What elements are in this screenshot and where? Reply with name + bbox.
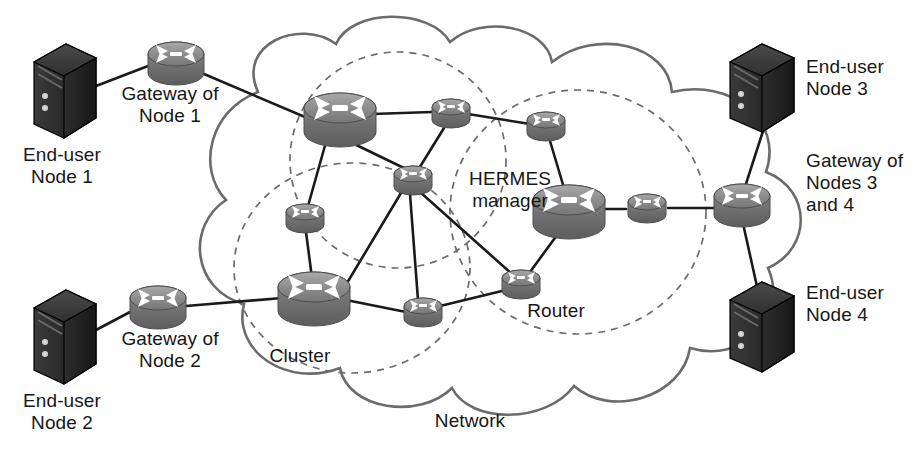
link-server3-gw34 — [744, 128, 764, 190]
link-chbl-rbm — [346, 300, 406, 312]
label-gateway-nodes-3-4: Gateway of Nodes 3 and 4 — [806, 150, 903, 216]
link-rur-hermes — [550, 141, 564, 188]
link-rbm-rlbl — [440, 290, 506, 306]
label-end-user-node-1: End-user Node 1 — [23, 144, 101, 188]
cluster-boundary-top — [290, 52, 506, 268]
label-router: Router — [527, 300, 585, 322]
link-rma-rbm — [410, 194, 418, 300]
link-rtm-rma — [418, 128, 444, 170]
server-end-user-node-1[interactable] — [34, 44, 96, 138]
router-cluster-head-top[interactable] — [304, 93, 376, 147]
router-labeled[interactable] — [502, 270, 540, 299]
label-end-user-node-3: End-user Node 3 — [806, 56, 884, 100]
label-gateway-of-node-1: Gateway of Node 1 — [121, 83, 218, 127]
server-end-user-node-3[interactable] — [730, 44, 794, 132]
link-rlu-chbl — [306, 232, 312, 278]
router-top-mid[interactable] — [432, 99, 470, 128]
router-cluster-head-bottom-left[interactable] — [278, 272, 350, 326]
router-gw-node-1[interactable] — [148, 42, 204, 85]
label-gateway-of-node-2: Gateway of Node 2 — [121, 328, 218, 372]
router-gw-nodes-3-4[interactable] — [714, 184, 770, 227]
router-left-upper[interactable] — [286, 204, 324, 233]
server-end-user-node-4[interactable] — [730, 282, 794, 372]
router-gw-node-2[interactable] — [130, 286, 186, 329]
network-diagram: End-user Node 1 Gateway of Node 1 End-us… — [0, 0, 918, 470]
link-chbl-rma — [344, 188, 404, 288]
link-ct-rlu — [308, 142, 326, 206]
label-end-user-node-2: End-user Node 2 — [23, 390, 101, 434]
router-upper-right[interactable] — [527, 112, 565, 141]
cluster-boundary-left — [234, 163, 470, 373]
router-bottom-mid[interactable] — [404, 298, 442, 327]
router-mid-a[interactable] — [394, 166, 432, 195]
link-ct-rtm — [372, 112, 432, 114]
router-right-edge[interactable] — [628, 194, 666, 223]
label-hermes-manager: HERMES manager — [469, 168, 551, 212]
diagram-canvas — [0, 0, 918, 470]
label-cluster: Cluster — [270, 345, 331, 367]
label-network: Network — [435, 410, 505, 432]
link-gw1-clusterhead — [204, 74, 312, 120]
label-end-user-node-4: End-user Node 4 — [806, 282, 884, 326]
server-end-user-node-2[interactable] — [34, 290, 96, 384]
